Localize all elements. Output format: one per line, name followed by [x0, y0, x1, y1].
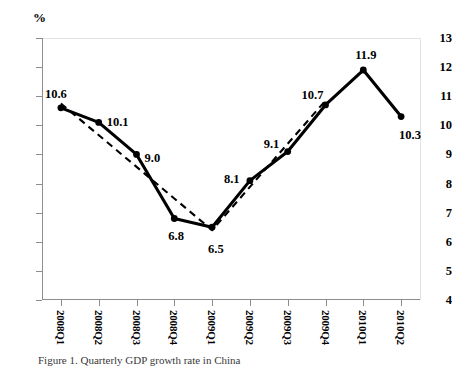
data-value-label: 6.5 [208, 243, 224, 256]
data-value-label: 10.7 [302, 89, 324, 102]
y-axis-tick [36, 271, 42, 272]
plot-area [42, 38, 420, 300]
x-axis-tick-label: 2008Q3 [131, 310, 142, 345]
y-axis-tick [36, 242, 42, 243]
x-axis-tick [363, 300, 364, 306]
x-axis-tick-label: 2008Q4 [168, 310, 179, 345]
plot-frame-right-border [420, 38, 421, 300]
data-value-label: 11.9 [355, 49, 376, 62]
data-value-label: 9.0 [145, 152, 161, 165]
x-axis-tick-label: 2010Q2 [395, 310, 406, 345]
y-axis-tick-label: 4 [422, 294, 452, 307]
y-axis-tick-label: 7 [422, 206, 452, 219]
y-axis-unit-label: % [33, 11, 46, 24]
data-value-label: 10.1 [107, 116, 129, 129]
y-axis-tick-label: 11 [422, 90, 452, 103]
y-axis-tick-label: 8 [422, 177, 452, 190]
x-axis-tick-label: 2009Q3 [282, 310, 293, 345]
x-axis-tick [288, 300, 289, 306]
x-axis-tick [137, 300, 138, 306]
x-axis-tick-label: 2009Q4 [320, 310, 331, 345]
y-axis-tick [36, 125, 42, 126]
x-axis-tick-label: 2008Q2 [93, 310, 104, 345]
x-axis-tick [250, 300, 251, 306]
y-axis-tick [36, 184, 42, 185]
y-axis-tick-label: 6 [422, 236, 452, 249]
data-value-label: 6.8 [168, 230, 184, 243]
x-axis-tick-label: 2010Q1 [357, 310, 368, 345]
x-axis-tick-label: 2008Q1 [55, 310, 66, 345]
x-axis-tick [174, 300, 175, 306]
y-axis-tick [36, 213, 42, 214]
x-axis-tick [212, 300, 213, 306]
x-axis-tick [61, 300, 62, 306]
y-axis-tick-label: 13 [422, 32, 452, 45]
x-axis-tick [326, 300, 327, 306]
y-axis-tick [36, 300, 42, 301]
data-value-label: 9.1 [264, 138, 280, 151]
x-axis-tick-label: 2009Q2 [244, 310, 255, 345]
y-axis-tick [36, 38, 42, 39]
figure-caption: Figure 1. Quarterly GDP growth rate in C… [38, 354, 240, 367]
y-axis-tick-label: 10 [422, 119, 452, 132]
x-axis-tick [99, 300, 100, 306]
x-axis-tick [401, 300, 402, 306]
data-value-label: 10.3 [399, 129, 421, 142]
data-value-label: 8.1 [224, 173, 240, 186]
y-axis-tick-label: 12 [422, 61, 452, 74]
y-axis-tick [36, 67, 42, 68]
y-axis-tick-label: 5 [422, 265, 452, 278]
x-axis-tick-label: 2009Q1 [206, 310, 217, 345]
data-value-label: 10.6 [45, 88, 67, 101]
y-axis-tick-label: 9 [422, 148, 452, 161]
y-axis-tick [36, 96, 42, 97]
y-axis-tick [36, 154, 42, 155]
